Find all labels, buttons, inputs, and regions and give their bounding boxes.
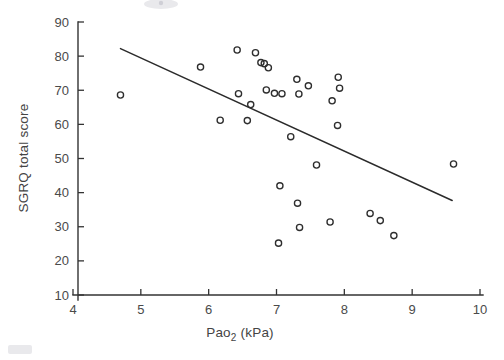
scan-artifact-bottom — [8, 345, 32, 354]
x-tick-label: 6 — [205, 302, 212, 317]
x-tick-label: 8 — [341, 302, 348, 317]
x-tick-label: 7 — [273, 302, 280, 317]
y-tick-label: 40 — [55, 185, 69, 200]
y-tick-label: 10 — [55, 288, 69, 303]
y-tick-label: 20 — [55, 253, 69, 268]
x-tick-label: 4 — [69, 302, 76, 317]
y-tick-label: 60 — [55, 117, 69, 132]
x-axis-label-unit: (kPa) — [237, 325, 274, 340]
y-tick-label: 90 — [55, 15, 69, 30]
y-tick-label: 80 — [55, 49, 69, 64]
x-tick-label: 5 — [137, 302, 144, 317]
y-axis-label: SGRQ total score — [16, 104, 31, 213]
y-tick-label: 50 — [55, 151, 69, 166]
x-tick-label: 10 — [473, 302, 487, 317]
y-tick-label: 70 — [55, 83, 69, 98]
scatter-plot-figure: 10203040506070809045678910 SGRQ total sc… — [0, 0, 504, 360]
scan-artifact-dot — [159, 1, 163, 5]
x-axis-label-base: Pao — [206, 325, 231, 340]
x-tick-label: 9 — [409, 302, 416, 317]
y-tick-label: 30 — [55, 219, 69, 234]
